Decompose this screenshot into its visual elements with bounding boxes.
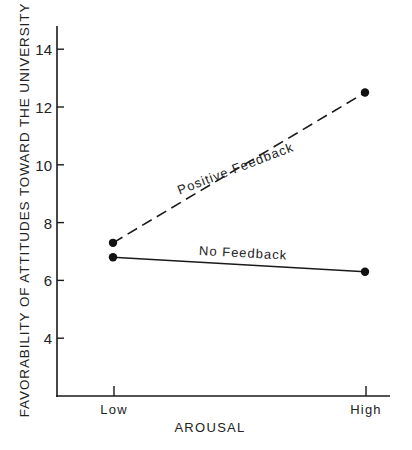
- y-tick-label: 6: [44, 272, 52, 289]
- x-tick-marks: [114, 386, 366, 396]
- data-point-marker: [109, 239, 117, 247]
- x-axis-label: AROUSAL: [174, 420, 245, 435]
- y-tick-marks: [57, 49, 64, 338]
- x-tick-label-high: High: [350, 402, 382, 417]
- y-axis-label: FAVORABILITY OF ATTITUDES TOWARD THE UNI…: [17, 3, 32, 418]
- y-tick-label: 14: [35, 41, 52, 58]
- y-tick-label: 4: [44, 330, 52, 347]
- plot-area: [0, 0, 412, 450]
- x-tick-label-low: Low: [100, 402, 127, 417]
- y-tick-label: 10: [35, 156, 52, 173]
- data-point-marker: [361, 268, 369, 276]
- y-tick-label: 12: [35, 99, 52, 116]
- y-tick-label: 8: [44, 214, 52, 231]
- data-point-marker: [109, 253, 117, 261]
- data-point-marker: [361, 88, 369, 96]
- line-chart: FAVORABILITY OF ATTITUDES TOWARD THE UNI…: [0, 0, 412, 450]
